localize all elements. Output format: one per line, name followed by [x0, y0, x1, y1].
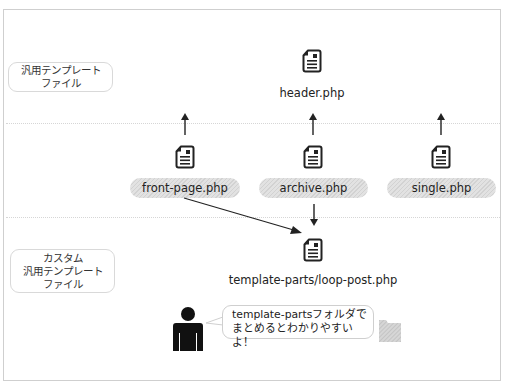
label-line: 汎用テンプレート	[11, 265, 114, 278]
loop-post-php-filename: template-parts/loop-post.php	[213, 273, 413, 287]
document-icon	[431, 145, 451, 169]
speech-line-1: template-partsフォルダで	[232, 308, 373, 322]
document-icon	[175, 145, 195, 169]
speech-line-2: まとめるとわかりやすいよ！	[232, 322, 373, 350]
arrow-up-icon	[308, 113, 318, 135]
separator-top	[6, 123, 500, 124]
person-icon	[172, 307, 204, 351]
speech-bubble: template-partsフォルダで まとめるとわかりやすいよ！	[222, 305, 374, 339]
general-template-label: 汎用テンプレート ファイル	[8, 62, 113, 92]
label-line: ファイル	[11, 278, 114, 291]
custom-template-label: カスタム 汎用テンプレート ファイル	[10, 249, 115, 293]
arrow-up-icon	[180, 113, 190, 135]
arrow-diagonal-icon	[180, 195, 320, 245]
arrow-down-icon	[309, 204, 319, 228]
document-icon	[302, 49, 322, 73]
header-php-filename: header.php	[262, 86, 362, 100]
arrow-up-icon	[436, 113, 446, 135]
single-php-filename: single.php	[387, 178, 496, 198]
label-line: ファイル	[9, 77, 112, 90]
document-icon	[303, 145, 323, 169]
label-line: 汎用テンプレート	[9, 64, 112, 77]
label-line: カスタム	[11, 252, 114, 265]
document-icon	[303, 238, 323, 262]
folder-icon	[379, 320, 401, 342]
